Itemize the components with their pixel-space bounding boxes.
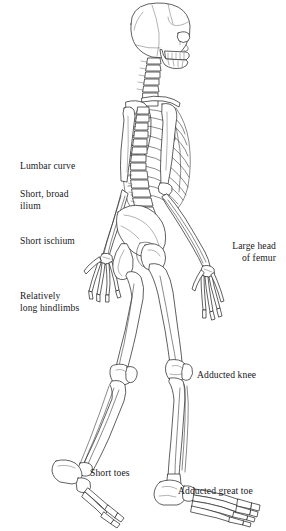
- skeleton-illustration: [0, 0, 286, 531]
- femur-near-icon: [141, 244, 187, 381]
- tibia-fibula-far-icon: [78, 381, 126, 477]
- skeleton-figure: Lumbar curve Short, broad ilium Short is…: [0, 0, 286, 531]
- label-short-ischium: Short ischium: [20, 235, 75, 247]
- label-short-toes: Short toes: [90, 467, 130, 479]
- patella-far-icon: [126, 367, 138, 383]
- radius-ulna-icon: [162, 194, 210, 269]
- tibia-fibula-near-icon: [167, 378, 188, 484]
- label-short-broad-ilium: Short, broad ilium: [20, 188, 69, 211]
- label-relatively-long-hindlimbs: Relatively long hindlimbs: [20, 290, 79, 313]
- label-adducted-knee: Adducted knee: [197, 369, 256, 381]
- maxilla-icon: [165, 51, 189, 60]
- label-adducted-great-toe: Adducted great toe: [178, 485, 253, 497]
- patella-icon: [182, 364, 193, 380]
- label-large-head-of-femur: Large head of femur: [216, 240, 276, 263]
- hand-near-icon: [192, 265, 224, 320]
- label-lumbar-curve: Lumbar curve: [20, 160, 75, 172]
